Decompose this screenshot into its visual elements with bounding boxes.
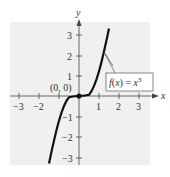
function-label-box: f(x) = x3 xyxy=(106,73,153,91)
x-axis-label: x xyxy=(160,90,166,101)
y-axis-label: y xyxy=(75,7,81,18)
x-tick-label: 2 xyxy=(116,101,121,112)
function-label: f(x) = x3 xyxy=(109,76,142,89)
y-tick-label: 2 xyxy=(67,51,72,62)
y-tick-label: 3 xyxy=(67,30,72,41)
x-tick-label: −3 xyxy=(13,101,24,112)
x-axis-arrow-icon xyxy=(152,94,159,99)
graph-canvas: x y −3 −2 1 2 3 3 2 1 −1 −2 −3 (0, 0) f(… xyxy=(0,0,170,177)
x-tick-label: 3 xyxy=(136,101,141,112)
y-tick-label: 1 xyxy=(67,71,72,82)
y-tick-label: −1 xyxy=(62,112,73,123)
y-tick-label: −3 xyxy=(62,153,73,164)
y-tick-label: −2 xyxy=(62,132,73,143)
plot-background xyxy=(10,22,150,165)
x-tick-label: 1 xyxy=(96,101,101,112)
origin-point-marker xyxy=(76,93,81,98)
x-tick-label: −2 xyxy=(33,101,44,112)
origin-point-label: (0, 0) xyxy=(50,82,72,94)
